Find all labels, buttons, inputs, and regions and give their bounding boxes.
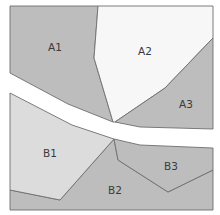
label-b3: B3	[164, 160, 178, 172]
zone-diagram: A1 A2 A3 B1 B2 B3	[0, 0, 220, 215]
label-b2: B2	[108, 184, 122, 196]
label-b1: B1	[43, 147, 57, 159]
label-a1: A1	[48, 41, 62, 53]
label-a3: A3	[179, 98, 193, 110]
label-a2: A2	[138, 45, 152, 57]
